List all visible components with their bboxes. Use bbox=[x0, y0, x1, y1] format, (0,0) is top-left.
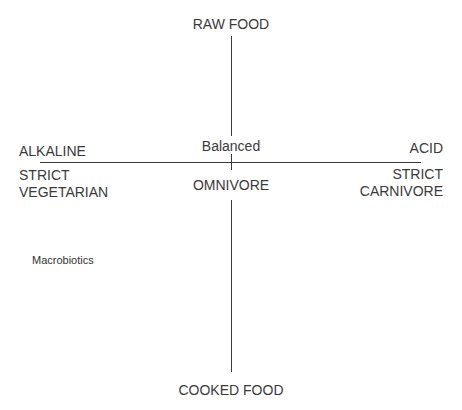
strict-vegetarian-line1: STRICT bbox=[19, 167, 108, 184]
omnivore-label: OMNIVORE bbox=[171, 177, 291, 194]
cooked-food-label: COOKED FOOD bbox=[161, 382, 301, 399]
diagram-canvas: RAW FOOD ALKALINE ACID Balanced OMNIVORE… bbox=[0, 0, 462, 410]
macrobiotics-annotation: Macrobiotics bbox=[32, 254, 94, 267]
strict-carnivore-line2: CARNIVORE bbox=[323, 183, 443, 200]
strict-vegetarian-line2: VEGETARIAN bbox=[19, 184, 108, 201]
balanced-label: Balanced bbox=[181, 138, 281, 155]
acid-label: ACID bbox=[343, 140, 443, 157]
alkaline-label: ALKALINE bbox=[19, 143, 86, 160]
vertical-axis-top-segment bbox=[231, 36, 232, 136]
horizontal-axis bbox=[40, 162, 421, 163]
strict-carnivore-line1: STRICT bbox=[323, 166, 443, 183]
strict-vegetarian-label: STRICT VEGETARIAN bbox=[19, 167, 108, 201]
vertical-axis-bottom-segment bbox=[231, 200, 232, 372]
raw-food-label: RAW FOOD bbox=[181, 16, 281, 33]
strict-carnivore-label: STRICT CARNIVORE bbox=[323, 166, 443, 200]
